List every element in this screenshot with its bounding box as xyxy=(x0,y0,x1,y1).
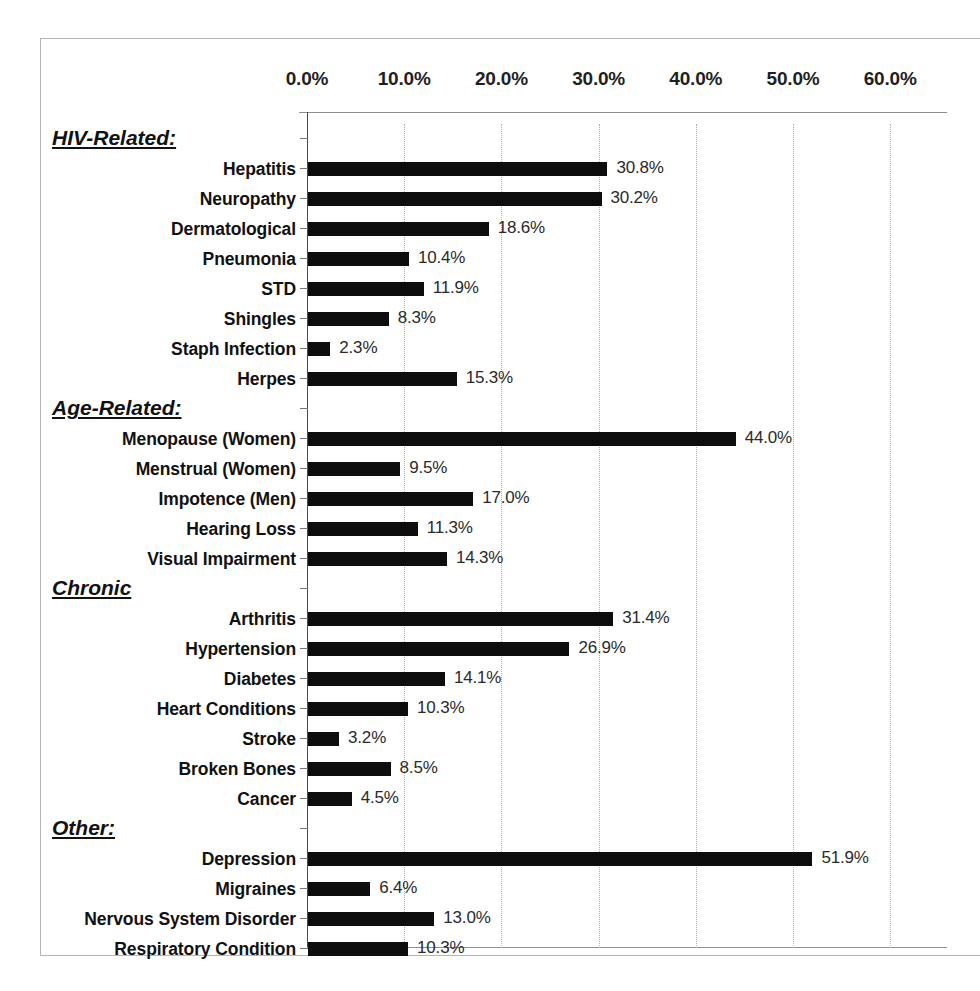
bar xyxy=(308,642,569,656)
axis-tick-mark xyxy=(300,378,308,379)
bar-category-label: Shingles xyxy=(0,309,296,330)
bar-value-label: 51.9% xyxy=(821,848,868,868)
bar-value-label: 13.0% xyxy=(443,908,490,928)
bar-value-label: 17.0% xyxy=(482,488,529,508)
axis-tick-mark xyxy=(300,948,308,949)
bar-value-label: 11.3% xyxy=(427,518,473,538)
category-heading-row: HIV-Related: xyxy=(0,124,947,154)
bar-value-label: 18.6% xyxy=(498,218,545,238)
bar xyxy=(308,762,391,776)
chart-bar-row: Neuropathy30.2% xyxy=(0,184,947,214)
bar-category-label: STD xyxy=(0,279,296,300)
axis-tick-mark xyxy=(300,738,308,739)
bar-category-label: Visual Impairment xyxy=(0,549,296,570)
bar-value-label: 14.1% xyxy=(454,668,501,688)
axis-tick-mark xyxy=(300,528,308,529)
chart-bar-row: Broken Bones8.5% xyxy=(0,754,947,784)
bar-value-label: 9.5% xyxy=(409,458,447,478)
category-heading: HIV-Related: xyxy=(52,126,176,150)
chart-bar-row: Menopause (Women)44.0% xyxy=(0,424,947,454)
bar-value-label: 6.4% xyxy=(379,878,417,898)
chart-bar-row: Herpes15.3% xyxy=(0,364,947,394)
bar-value-label: 8.5% xyxy=(400,758,438,778)
axis-tick-mark xyxy=(300,348,308,349)
bar xyxy=(308,372,457,386)
x-axis-tick-labels: 0.0%10.0%20.0%30.0%40.0%50.0%60.0% xyxy=(0,68,947,98)
x-axis-tick-label: 30.0% xyxy=(572,68,625,90)
bar xyxy=(308,792,352,806)
bar-category-label: Migraines xyxy=(0,879,296,900)
bar-category-label: Nervous System Disorder xyxy=(0,909,296,930)
category-heading: Other: xyxy=(52,816,115,840)
bar xyxy=(308,312,389,326)
axis-tick-mark xyxy=(300,858,308,859)
bar-value-label: 3.2% xyxy=(348,728,386,748)
bar xyxy=(308,552,447,566)
axis-tick-mark xyxy=(300,708,308,709)
bar xyxy=(308,252,409,266)
bar xyxy=(308,732,339,746)
chart-bar-row: Cancer4.5% xyxy=(0,784,947,814)
chart-bar-row: Menstrual (Women)9.5% xyxy=(0,454,947,484)
x-axis-tick-label: 40.0% xyxy=(669,68,722,90)
chart-bar-row: Migraines6.4% xyxy=(0,874,947,904)
chart-bar-row: Stroke3.2% xyxy=(0,724,947,754)
bar xyxy=(308,672,445,686)
bar-category-label: Stroke xyxy=(0,729,296,750)
bar-value-label: 31.4% xyxy=(622,608,669,628)
bar-category-label: Dermatological xyxy=(0,219,296,240)
axis-tick-mark xyxy=(300,258,308,259)
axis-tick-mark xyxy=(300,918,308,919)
bar-category-label: Hepatitis xyxy=(0,159,296,180)
axis-tick-mark xyxy=(300,588,308,589)
chart-bar-row: Dermatological18.6% xyxy=(0,214,947,244)
category-heading: Age-Related: xyxy=(52,396,182,420)
axis-tick-mark xyxy=(300,408,308,409)
chart-bar-row: Depression51.9% xyxy=(0,844,947,874)
chart-bar-row: Hearing Loss11.3% xyxy=(0,514,947,544)
axis-tick-mark xyxy=(300,228,308,229)
chart-bar-row: Diabetes14.1% xyxy=(0,664,947,694)
axis-top-rule xyxy=(299,112,947,113)
x-axis-tick-label: 60.0% xyxy=(864,68,917,90)
bar-value-label: 10.4% xyxy=(418,248,465,268)
bar-value-label: 30.2% xyxy=(611,188,658,208)
bar xyxy=(308,612,613,626)
chart-bar-row: Hypertension26.9% xyxy=(0,634,947,664)
category-heading-row: Other: xyxy=(0,814,947,844)
axis-tick-mark xyxy=(300,468,308,469)
chart-bar-row: Staph Infection2.3% xyxy=(0,334,947,364)
bar-value-label: 10.3% xyxy=(417,698,464,718)
bar xyxy=(308,942,408,956)
bar-category-label: Pneumonia xyxy=(0,249,296,270)
axis-tick-mark xyxy=(300,288,308,289)
bar-value-label: 11.9% xyxy=(433,278,479,298)
bar xyxy=(308,162,607,176)
bar xyxy=(308,882,370,896)
bar-category-label: Hearing Loss xyxy=(0,519,296,540)
bar-category-label: Menstrual (Women) xyxy=(0,459,296,480)
bar-category-label: Hypertension xyxy=(0,639,296,660)
bar-category-label: Impotence (Men) xyxy=(0,489,296,510)
bar-value-label: 4.5% xyxy=(361,788,399,808)
bar xyxy=(308,912,434,926)
bar xyxy=(308,342,330,356)
chart-bar-row: Nervous System Disorder13.0% xyxy=(0,904,947,934)
axis-tick-mark xyxy=(300,678,308,679)
bar-value-label: 14.3% xyxy=(456,548,503,568)
bar-value-label: 2.3% xyxy=(339,338,377,358)
bar-category-label: Broken Bones xyxy=(0,759,296,780)
axis-tick-mark xyxy=(300,828,308,829)
category-heading: Chronic xyxy=(52,576,131,600)
axis-tick-mark xyxy=(300,618,308,619)
x-axis-tick-label: 20.0% xyxy=(475,68,528,90)
x-axis-tick-label: 10.0% xyxy=(378,68,431,90)
bar-value-label: 26.9% xyxy=(578,638,625,658)
axis-tick-mark xyxy=(300,558,308,559)
axis-tick-mark xyxy=(300,768,308,769)
axis-tick-mark xyxy=(300,648,308,649)
bar-value-label: 30.8% xyxy=(616,158,663,178)
bar-category-label: Diabetes xyxy=(0,669,296,690)
bar xyxy=(308,522,418,536)
axis-tick-mark xyxy=(300,438,308,439)
